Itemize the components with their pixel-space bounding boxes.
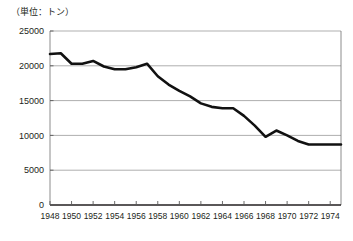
y-tick-label: 25000 (19, 26, 44, 36)
x-tick-label: 1960 (170, 211, 189, 221)
x-tick-label: 1948 (41, 211, 60, 221)
plot-frame (50, 31, 341, 205)
x-tick-label: 1968 (256, 211, 275, 221)
y-tick-label: 10000 (19, 131, 44, 141)
x-tick-label: 1970 (278, 211, 297, 221)
x-axis-tick-labels: 1948195019521954195619581960196219641966… (41, 211, 340, 221)
x-tick-label: 1954 (105, 211, 124, 221)
x-tick-label: 1964 (213, 211, 232, 221)
chart-container: （単位：トン） 2500020000150001000050000 194819… (0, 0, 353, 241)
x-tick-label: 1966 (235, 211, 254, 221)
y-axis-tick-labels: 2500020000150001000050000 (19, 26, 54, 210)
y-tick-label: 15000 (19, 96, 44, 106)
line-chart-plot: 2500020000150001000050000 19481950195219… (0, 0, 353, 241)
data-series-group (50, 53, 341, 144)
x-tick-label: 1962 (191, 211, 210, 221)
x-tick-label: 1952 (84, 211, 103, 221)
x-tick-label: 1956 (127, 211, 146, 221)
y-tick-label: 5000 (24, 165, 44, 175)
x-tick-label: 1958 (148, 211, 167, 221)
x-tick-label: 1972 (299, 211, 318, 221)
y-tick-label: 20000 (19, 61, 44, 71)
x-tick-label: 1950 (62, 211, 81, 221)
y-tick-label: 0 (39, 200, 44, 210)
data-series-line (50, 53, 341, 144)
x-tick-label: 1974 (321, 211, 340, 221)
